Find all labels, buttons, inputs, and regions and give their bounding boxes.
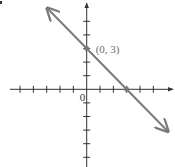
x-axis: 0 — [10, 86, 173, 104]
origin-label: 0 — [80, 91, 86, 103]
line-y-equals-neg-x-plus-3 — [48, 9, 167, 130]
data-point — [84, 46, 89, 51]
y-axis — [83, 3, 90, 167]
data-point — [124, 87, 129, 92]
line-series — [48, 9, 167, 130]
coordinate-graph: 0 (0, 3) — [0, 0, 175, 167]
point-label: (0, 3) — [96, 43, 120, 56]
point-labels: (0, 3) — [96, 43, 120, 56]
